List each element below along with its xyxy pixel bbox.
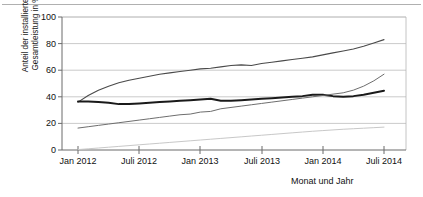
y-axis-ticks (58, 17, 62, 150)
series-1-upper-thin (78, 40, 384, 103)
x-tick-label-jan-2013: Jan 2013 (175, 156, 225, 166)
axis-lines (62, 17, 406, 150)
x-axis-label: Monat und Jahr (291, 176, 354, 186)
series-2-bold (78, 91, 384, 104)
x-tick-label-juli-2014: Juli 2014 (359, 156, 409, 166)
x-tick-label-jan-2012: Jan 2012 (53, 156, 103, 166)
x-tick-label-juli-2012: Juli 2012 (114, 156, 164, 166)
x-tick-label-jan-2014: Jan 2014 (298, 156, 348, 166)
chart-canvas (0, 0, 423, 197)
data-series-group (78, 40, 384, 150)
series-4-faint-lower (78, 127, 384, 149)
chart-figure: Anteil der installierten Gesamtleistung … (0, 0, 423, 197)
x-tick-label-juli-2013: Juli 2013 (237, 156, 287, 166)
